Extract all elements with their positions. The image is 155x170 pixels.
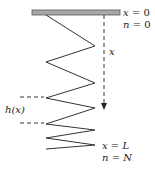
x-axis-arrowhead-icon [101, 103, 107, 110]
bottom-label-n-eq: = [108, 152, 123, 163]
bottom-label-n-val: N [122, 152, 133, 163]
bottom-label-x: x = L [102, 140, 129, 151]
bottom-label-n: n = N [102, 152, 133, 163]
bottom-label-x-eq: = [108, 140, 123, 151]
spring-coil [46, 15, 95, 149]
top-label-x: x = 0 [123, 7, 150, 18]
top-label-x-eq: = 0 [129, 7, 150, 18]
ceiling-bar [32, 10, 120, 15]
x-axis-label: x [109, 46, 115, 57]
top-label-n: n = 0 [123, 19, 151, 30]
top-label-n-eq: = 0 [129, 19, 150, 30]
height-label: h(x) [5, 104, 25, 115]
hanging-spring-diagram: x h(x) x = 0 n = 0 x = L n = N [0, 0, 155, 170]
bottom-label-x-val: L [121, 140, 129, 151]
